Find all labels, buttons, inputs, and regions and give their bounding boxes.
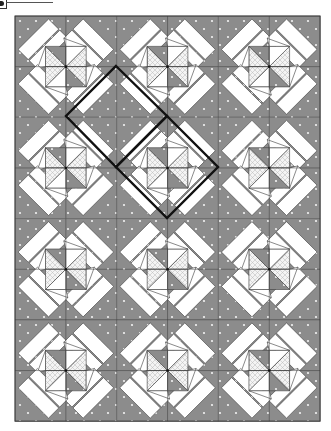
- quilt-block: [218, 219, 320, 320]
- quilt-block: [117, 16, 219, 117]
- quilt-block: [117, 219, 219, 320]
- quilt-block: [218, 320, 320, 421]
- center-point: [268, 369, 271, 372]
- quilt-diagram: [0, 0, 331, 431]
- center-point: [268, 268, 271, 271]
- center-point: [166, 167, 169, 170]
- quilt-block: [117, 320, 219, 421]
- quilt-block: [218, 16, 320, 117]
- center-point: [268, 65, 271, 68]
- quilt-block: [117, 117, 219, 218]
- center-point: [166, 369, 169, 372]
- quilt-block: [15, 16, 117, 117]
- center-point: [166, 268, 169, 271]
- quilt-block: [15, 320, 117, 421]
- center-point: [268, 167, 271, 170]
- quilt-block: [15, 117, 117, 218]
- center-point: [65, 369, 68, 372]
- quilt-block: [15, 219, 117, 320]
- center-point: [166, 65, 169, 68]
- center-point: [65, 65, 68, 68]
- center-point: [65, 268, 68, 271]
- quilt-block: [218, 117, 320, 218]
- center-point: [65, 167, 68, 170]
